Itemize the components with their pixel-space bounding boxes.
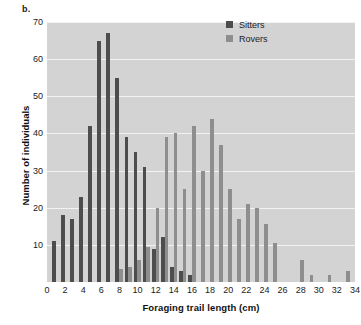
bar-sitters-16 <box>188 275 192 282</box>
x-tick-label: 0 <box>44 285 49 295</box>
x-tick-label: 28 <box>296 285 306 295</box>
x-tick-label: 12 <box>151 285 161 295</box>
x-tick-label: 14 <box>169 285 179 295</box>
legend-item: Rovers <box>226 33 268 44</box>
legend-label: Rovers <box>239 34 268 44</box>
x-tick-label: 20 <box>223 285 233 295</box>
x-tick-label: 6 <box>99 285 104 295</box>
legend-label: Sitters <box>239 20 265 30</box>
bar-sitters-1 <box>52 241 56 282</box>
bar-sitters-12 <box>152 249 156 282</box>
bar-rovers-33 <box>346 271 350 282</box>
bar-rovers-14 <box>174 133 178 282</box>
bar-rovers-17 <box>201 171 205 282</box>
bar-sitters-2 <box>61 215 65 282</box>
x-tick-label: 16 <box>187 285 197 295</box>
x-tick-label: 34 <box>350 285 360 295</box>
bar-rovers-29 <box>310 275 314 282</box>
figure-panel-b: b. 10203040506070 0246810121416182022242… <box>0 0 361 325</box>
bar-sitters-14 <box>170 267 174 282</box>
x-tick-label: 4 <box>81 285 86 295</box>
x-axis-label: Foraging trail length (cm) <box>47 302 355 313</box>
bar-sitters-9 <box>125 137 129 282</box>
bar-sitters-4 <box>79 197 83 282</box>
bar-sitters-6 <box>97 41 101 282</box>
bar-sitters-10 <box>134 152 138 282</box>
bar-rovers-21 <box>237 219 241 282</box>
x-tick-label: 32 <box>332 285 342 295</box>
x-tick-label: 8 <box>117 285 122 295</box>
bar-sitters-5 <box>88 126 92 282</box>
x-tick-label: 24 <box>259 285 269 295</box>
x-tick-label: 2 <box>63 285 68 295</box>
bar-rovers-18 <box>210 119 214 282</box>
bar-sitters-3 <box>70 219 74 282</box>
bar-rovers-28 <box>300 260 304 282</box>
bar-rovers-24 <box>264 224 268 282</box>
bar-rovers-10 <box>137 260 141 282</box>
x-tick-label: 22 <box>241 285 251 295</box>
bar-rovers-13 <box>165 137 169 282</box>
bar-rovers-31 <box>328 275 332 282</box>
bar-rovers-20 <box>228 189 232 282</box>
bar-sitters-13 <box>161 237 165 282</box>
bar-sitters-8 <box>115 78 119 282</box>
bar-sitters-15 <box>179 271 183 282</box>
bar-sitters-11 <box>143 167 147 282</box>
x-tick-label: 18 <box>205 285 215 295</box>
x-tick-label: 10 <box>133 285 143 295</box>
legend-item: Sitters <box>226 19 268 30</box>
x-tick-label: 30 <box>314 285 324 295</box>
y-axis-label: Number of individuals <box>20 76 31 236</box>
bar-rovers-19 <box>219 145 223 282</box>
bar-rovers-22 <box>246 204 250 282</box>
bar-rovers-16 <box>192 126 196 282</box>
bar-rovers-11 <box>146 247 150 282</box>
bar-rovers-12 <box>156 208 160 282</box>
bar-rovers-15 <box>183 189 187 282</box>
bar-sitters-7 <box>106 33 110 282</box>
bar-rovers-9 <box>128 267 132 282</box>
bar-rovers-8 <box>119 269 123 282</box>
legend: SittersRovers <box>222 16 272 50</box>
legend-swatch-icon <box>226 35 233 42</box>
x-tick-label: 26 <box>278 285 288 295</box>
bar-rovers-25 <box>273 243 277 282</box>
bar-rovers-23 <box>255 208 259 282</box>
legend-swatch-icon <box>226 21 233 28</box>
